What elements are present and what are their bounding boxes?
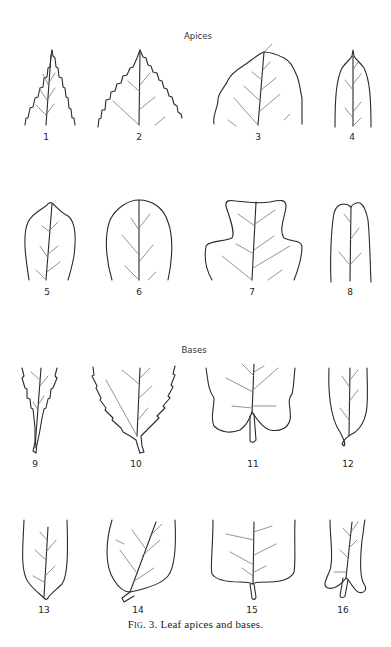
leaf-label-4: 4 [349, 132, 355, 142]
leaf-base-15-icon [211, 520, 295, 599]
leaf-base-12-icon [329, 368, 368, 446]
leaf-base-11-icon [206, 364, 295, 442]
leaf-label-10: 10 [130, 459, 141, 469]
leaf-label-1: 1 [43, 132, 49, 142]
leaf-apex-7-icon [205, 201, 302, 280]
leaf-apex-6-icon [106, 200, 171, 280]
leaf-apex-3-icon [214, 44, 302, 126]
figure-number: Fig. 3. [128, 618, 158, 630]
leaf-apex-5-icon [25, 203, 75, 280]
leaf-label-5: 5 [44, 287, 50, 297]
leaf-label-8: 8 [347, 287, 353, 297]
leaf-label-15: 15 [246, 605, 257, 615]
leaf-apex-1-icon [25, 50, 75, 125]
leaf-drawings [0, 0, 391, 647]
leaf-figure: Apices Bases [0, 0, 391, 647]
leaf-label-16: 16 [337, 605, 348, 615]
leaf-base-14-icon [107, 520, 175, 602]
leaf-label-13: 13 [38, 605, 49, 615]
leaf-label-12: 12 [342, 459, 353, 469]
leaf-label-3: 3 [255, 132, 261, 142]
leaf-label-7: 7 [249, 287, 255, 297]
figure-caption: Fig. 3. Leaf apices and bases. [128, 618, 263, 630]
leaf-label-6: 6 [136, 287, 142, 297]
figure-caption-text: Leaf apices and bases. [158, 618, 264, 630]
leaf-base-13-icon [23, 520, 68, 600]
leaf-label-2: 2 [136, 132, 142, 142]
leaf-base-9-icon [22, 368, 57, 453]
leaf-base-16-icon [325, 520, 366, 598]
leaf-apex-8-icon [331, 203, 371, 282]
leaf-label-9: 9 [32, 459, 38, 469]
leaf-label-11: 11 [247, 459, 258, 469]
leaf-base-10-icon [92, 366, 175, 453]
leaf-label-14: 14 [132, 605, 143, 615]
leaf-apex-4-icon [335, 50, 371, 127]
leaf-apex-2-icon [98, 50, 182, 127]
